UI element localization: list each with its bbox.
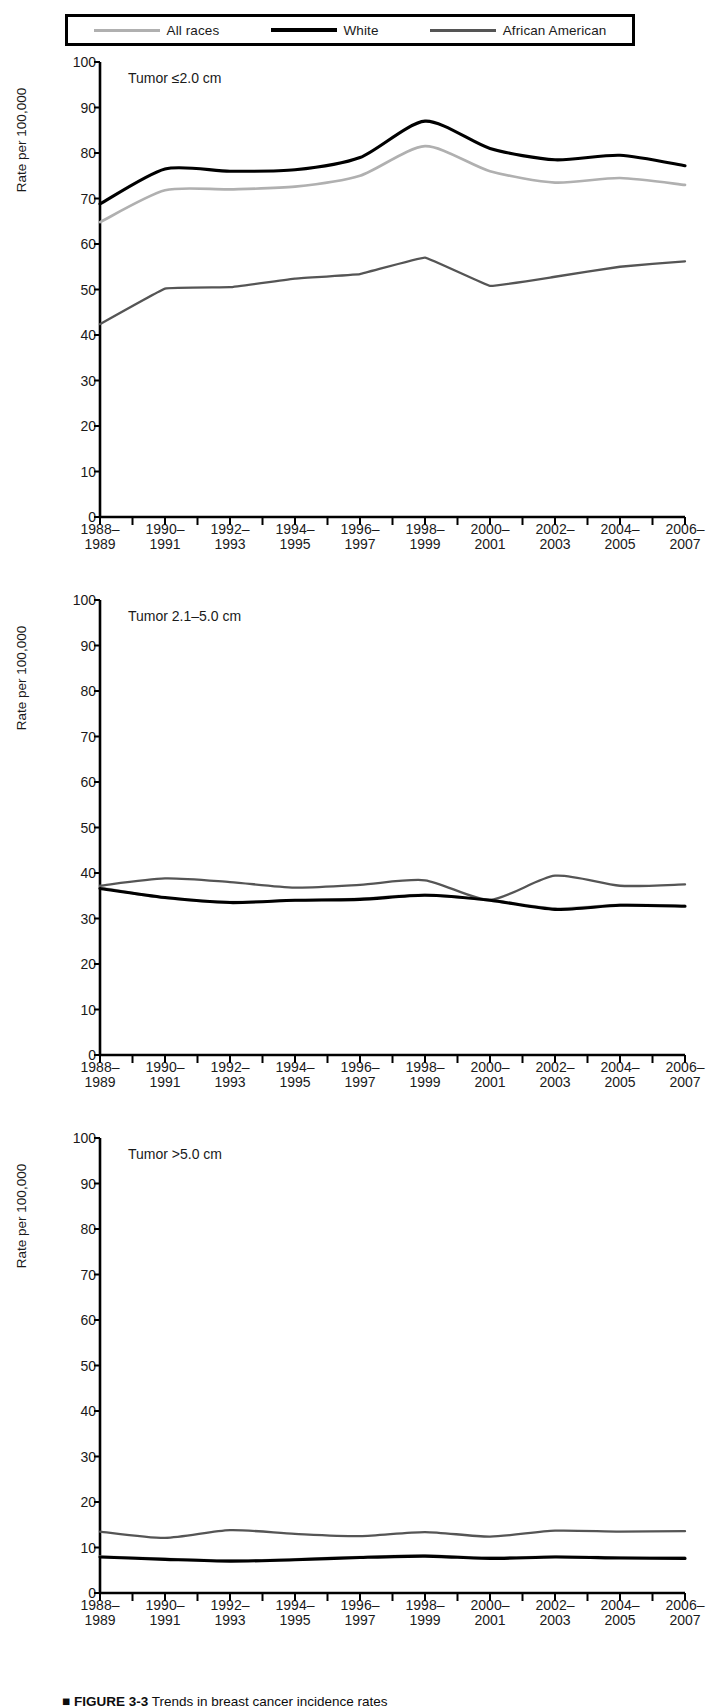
plot-area bbox=[100, 600, 685, 1055]
y-axis-tick-label: 10 bbox=[56, 1541, 96, 1555]
data-series-line bbox=[100, 1556, 685, 1561]
x-axis-tick-label: 2004– 2005 bbox=[585, 1598, 655, 1628]
y-axis-tick-label: 90 bbox=[56, 101, 96, 115]
y-axis-tick-label: 70 bbox=[56, 730, 96, 744]
y-axis-tick-label: 100 bbox=[56, 1131, 96, 1145]
y-axis-tick-label: 40 bbox=[56, 328, 96, 342]
x-axis-tick-label: 2000– 2001 bbox=[455, 1060, 525, 1090]
plot-area bbox=[100, 1138, 685, 1593]
y-axis-tick-label: 30 bbox=[56, 374, 96, 388]
y-axis-tick-label: 50 bbox=[56, 283, 96, 297]
x-axis-tick-labels: 1988– 19891990– 19911992– 19931994– 1995… bbox=[100, 522, 685, 566]
y-axis-tick-label: 20 bbox=[56, 419, 96, 433]
x-axis-tick-label: 2004– 2005 bbox=[585, 1060, 655, 1090]
x-axis-tick-label: 2002– 2003 bbox=[520, 1598, 590, 1628]
x-axis-tick-label: 2006– 2007 bbox=[650, 1060, 707, 1090]
y-axis-tick-label: 60 bbox=[56, 1313, 96, 1327]
x-axis-tick-labels: 1988– 19891990– 19911992– 19931994– 1995… bbox=[100, 1060, 685, 1104]
x-axis-tick-label: 2002– 2003 bbox=[520, 1060, 590, 1090]
y-axis-tick-label: 50 bbox=[56, 821, 96, 835]
chart-legend: All races White African American bbox=[65, 14, 635, 46]
y-axis-tick-label: 80 bbox=[56, 684, 96, 698]
x-axis-tick-label: 1988– 1989 bbox=[65, 522, 135, 552]
caption-text: Trends in breast cancer incidence rates bbox=[152, 1694, 388, 1707]
y-axis-tick-label: 90 bbox=[56, 639, 96, 653]
y-axis-tick-label: 70 bbox=[56, 1268, 96, 1282]
x-axis-tick-label: 2000– 2001 bbox=[455, 522, 525, 552]
x-axis-tick-label: 1988– 1989 bbox=[65, 1598, 135, 1628]
y-axis-tick-label: 70 bbox=[56, 192, 96, 206]
x-axis-tick-label: 1994– 1995 bbox=[260, 1060, 330, 1090]
x-axis-tick-label: 2000– 2001 bbox=[455, 1598, 525, 1628]
x-axis-tick-label: 2002– 2003 bbox=[520, 522, 590, 552]
y-axis-tick-labels: 0102030405060708090100 bbox=[52, 62, 96, 517]
chart-panel-tumor-le-2cm: Rate per 100,000Tumor ≤2.0 cm01020304050… bbox=[0, 52, 707, 590]
legend-label-white: White bbox=[344, 23, 379, 38]
x-axis-tick-label: 1988– 1989 bbox=[65, 1060, 135, 1090]
legend-label-african-american: African American bbox=[503, 23, 607, 38]
plot-area bbox=[100, 62, 685, 517]
x-axis-tick-label: 1992– 1993 bbox=[195, 1060, 265, 1090]
x-axis-tick-label: 1990– 1991 bbox=[130, 1060, 200, 1090]
y-axis-tick-label: 10 bbox=[56, 465, 96, 479]
caption-figure-number: FIGURE 3-3 bbox=[74, 1694, 148, 1707]
y-axis-tick-labels: 0102030405060708090100 bbox=[52, 600, 96, 1055]
x-axis-tick-label: 1994– 1995 bbox=[260, 1598, 330, 1628]
data-series-line bbox=[100, 258, 685, 324]
y-axis-label: Rate per 100,000 bbox=[14, 598, 29, 758]
x-axis-tick-label: 1994– 1995 bbox=[260, 522, 330, 552]
y-axis-tick-label: 90 bbox=[56, 1177, 96, 1191]
legend-item-white: White bbox=[271, 23, 379, 38]
y-axis-tick-label: 20 bbox=[56, 957, 96, 971]
x-axis-tick-labels: 1988– 19891990– 19911992– 19931994– 1995… bbox=[100, 1598, 685, 1642]
legend-line-swatch-all-races bbox=[94, 29, 160, 32]
x-axis-tick-label: 2004– 2005 bbox=[585, 522, 655, 552]
x-axis-tick-label: 1996– 1997 bbox=[325, 522, 395, 552]
y-axis-tick-label: 100 bbox=[56, 55, 96, 69]
caption-marker-icon: ■ bbox=[62, 1694, 70, 1707]
y-axis-tick-label: 10 bbox=[56, 1003, 96, 1017]
y-axis-tick-label: 30 bbox=[56, 912, 96, 926]
x-axis-tick-label: 1990– 1991 bbox=[130, 1598, 200, 1628]
x-axis-tick-label: 1996– 1997 bbox=[325, 1598, 395, 1628]
legend-line-swatch-white bbox=[271, 28, 337, 32]
axis-spines bbox=[100, 62, 685, 517]
legend-label-all-races: All races bbox=[167, 23, 220, 38]
x-axis-tick-label: 1996– 1997 bbox=[325, 1060, 395, 1090]
x-axis-tick-label: 2006– 2007 bbox=[650, 522, 707, 552]
legend-line-swatch-african-american bbox=[430, 29, 496, 32]
y-axis-tick-label: 60 bbox=[56, 775, 96, 789]
x-axis-tick-label: 1998– 1999 bbox=[390, 1060, 460, 1090]
figure-caption: ■ FIGURE 3-3 Trends in breast cancer inc… bbox=[62, 1693, 702, 1707]
chart-panel-tumor-2-1-to-5cm: Rate per 100,000Tumor 2.1–5.0 cm01020304… bbox=[0, 590, 707, 1128]
y-axis-tick-label: 30 bbox=[56, 1450, 96, 1464]
y-axis-label: Rate per 100,000 bbox=[14, 60, 29, 220]
y-axis-tick-label: 20 bbox=[56, 1495, 96, 1509]
x-axis-tick-label: 2006– 2007 bbox=[650, 1598, 707, 1628]
y-axis-tick-label: 40 bbox=[56, 866, 96, 880]
x-axis-tick-label: 1992– 1993 bbox=[195, 522, 265, 552]
y-axis-tick-label: 100 bbox=[56, 593, 96, 607]
y-axis-tick-label: 60 bbox=[56, 237, 96, 251]
data-series-line bbox=[100, 888, 685, 909]
axis-spines bbox=[100, 1138, 685, 1593]
y-axis-tick-labels: 0102030405060708090100 bbox=[52, 1138, 96, 1593]
data-series-line bbox=[100, 1530, 685, 1538]
legend-item-all-races: All races bbox=[94, 23, 220, 38]
x-axis-tick-label: 1998– 1999 bbox=[390, 1598, 460, 1628]
y-axis-tick-label: 50 bbox=[56, 1359, 96, 1373]
x-axis-tick-label: 1990– 1991 bbox=[130, 522, 200, 552]
x-axis-tick-label: 1992– 1993 bbox=[195, 1598, 265, 1628]
x-axis-tick-label: 1998– 1999 bbox=[390, 522, 460, 552]
axis-spines bbox=[100, 600, 685, 1055]
legend-item-african-american: African American bbox=[430, 23, 607, 38]
y-axis-label: Rate per 100,000 bbox=[14, 1136, 29, 1296]
y-axis-tick-label: 80 bbox=[56, 146, 96, 160]
chart-panel-tumor-gt-5cm: Rate per 100,000Tumor >5.0 cm01020304050… bbox=[0, 1128, 707, 1666]
y-axis-tick-label: 80 bbox=[56, 1222, 96, 1236]
data-series-line bbox=[100, 121, 685, 204]
y-axis-tick-label: 40 bbox=[56, 1404, 96, 1418]
